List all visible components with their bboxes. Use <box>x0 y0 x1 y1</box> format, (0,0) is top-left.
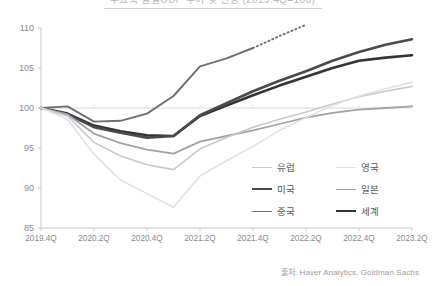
x-tick-label: 2021.4Q <box>230 234 276 243</box>
legend-label-china: 중국 <box>277 204 295 218</box>
legend-item-world[interactable]: 세계 <box>336 204 420 218</box>
legend-label-world: 세계 <box>361 204 379 218</box>
y-tick-label: 90 <box>8 184 34 193</box>
y-tick-label: 95 <box>8 144 34 153</box>
series-line-china-forecast <box>253 25 306 48</box>
legend-item-japan[interactable]: 일본 <box>336 182 420 196</box>
series-line-world <box>41 55 412 136</box>
legend-swatch-uk <box>336 167 356 168</box>
series-line-usa <box>41 39 412 137</box>
legend-swatch-usa <box>252 188 272 190</box>
source-note: 출처: Haver Analytics, Goldman Sachs <box>281 266 419 277</box>
legend-label-europe: 유럽 <box>277 160 295 174</box>
legend-swatch-europe <box>252 167 272 168</box>
series-line-china <box>41 48 253 122</box>
legend-item-uk[interactable]: 영국 <box>336 160 420 174</box>
y-tick-label: 100 <box>8 104 34 113</box>
y-tick-label: 85 <box>8 224 34 233</box>
legend-label-uk: 영국 <box>361 160 379 174</box>
legend-swatch-china <box>252 211 272 212</box>
x-tick-label: 2022.2Q <box>283 234 329 243</box>
x-tick-label: 2020.2Q <box>71 234 117 243</box>
legend-label-usa: 미국 <box>277 182 295 196</box>
x-tick-label: 2021.2Q <box>177 234 223 243</box>
legend-swatch-japan <box>336 189 356 190</box>
x-tick-label: 2019.4Q <box>18 234 64 243</box>
legend-item-china[interactable]: 중국 <box>252 204 336 218</box>
x-tick-label: 2022.4Q <box>336 234 382 243</box>
chart-legend: 유럽영국미국일본중국세계 <box>252 156 420 222</box>
legend-label-japan: 일본 <box>361 182 379 196</box>
legend-item-usa[interactable]: 미국 <box>252 182 336 196</box>
y-tick-label: 110 <box>8 24 34 33</box>
legend-item-europe[interactable]: 유럽 <box>252 160 336 174</box>
x-tick-label: 2020.4Q <box>124 234 170 243</box>
legend-swatch-world <box>336 210 356 212</box>
y-tick-label: 105 <box>8 64 34 73</box>
series-line-japan <box>41 106 412 153</box>
x-tick-label: 2023.2Q <box>389 234 432 243</box>
